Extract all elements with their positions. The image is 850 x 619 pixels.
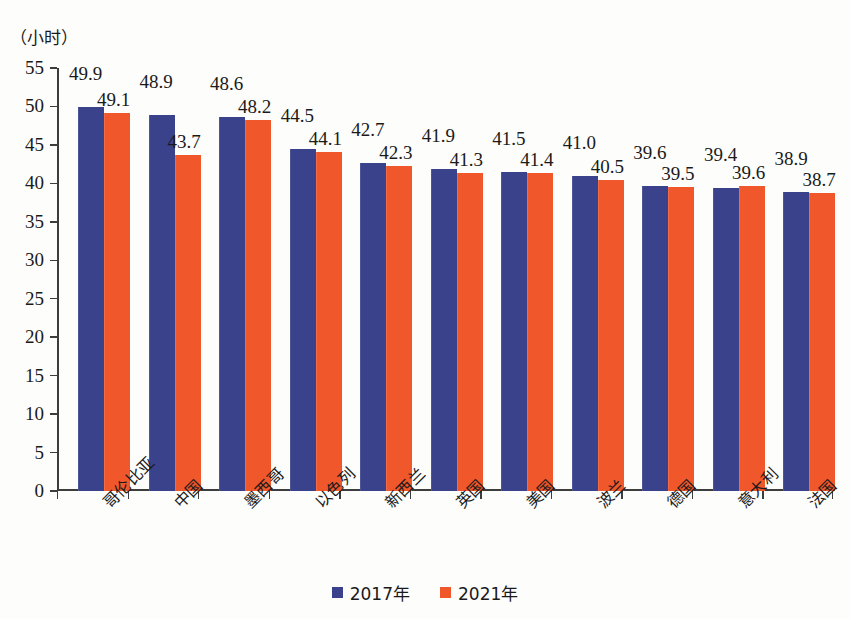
bar-series-2021[interactable]: [104, 113, 130, 491]
bar-value-label: 41.5: [492, 129, 525, 148]
x-axis-tick: [57, 491, 58, 499]
y-axis-tick-label: 40: [4, 173, 44, 192]
y-axis-tick-label: 55: [4, 58, 44, 77]
bar-group: 41.040.5: [572, 68, 624, 491]
bar-value-label: 48.6: [210, 74, 243, 93]
bar-value-label: 39.4: [704, 145, 737, 164]
bar-value-label: 44.1: [309, 129, 342, 148]
legend-item-2017[interactable]: 2017年: [332, 580, 410, 605]
bar-group: 39.439.6: [713, 68, 765, 491]
y-axis-tick: [50, 67, 57, 68]
bar-value-label: 48.2: [238, 97, 271, 116]
y-axis-tick-label: 0: [4, 481, 44, 500]
bar-series-2021[interactable]: [457, 173, 483, 491]
y-axis-tick: [50, 106, 57, 107]
y-axis-tick-label: 45: [4, 135, 44, 154]
bar-series-2017[interactable]: [713, 188, 739, 491]
bar-series-2021[interactable]: [668, 187, 694, 491]
bar-value-label: 44.5: [281, 106, 314, 125]
bar-series-2021[interactable]: [245, 120, 271, 491]
bar-value-label: 41.0: [563, 133, 596, 152]
bar-series-2017[interactable]: [290, 149, 316, 491]
y-axis-tick-label: 10: [4, 404, 44, 423]
y-axis-tick: [50, 490, 57, 491]
legend-label: 2021年: [458, 580, 518, 605]
y-axis-tick-label: 50: [4, 96, 44, 115]
bar-group: 41.941.3: [431, 68, 483, 491]
bar-value-label: 49.9: [69, 64, 102, 83]
bar-group: 38.938.7: [783, 68, 835, 491]
bar-value-label: 41.4: [520, 150, 553, 169]
y-axis-tick-label: 15: [4, 366, 44, 385]
bar-series-2021[interactable]: [739, 186, 765, 491]
y-axis-tick: [50, 336, 57, 337]
bar-group: 42.742.3: [360, 68, 412, 491]
y-axis-tick: [50, 144, 57, 145]
plot-area: 051015202530354045505549.949.148.943.748…: [57, 68, 833, 491]
bar-series-2021[interactable]: [527, 173, 553, 491]
bar-series-2017[interactable]: [572, 176, 598, 491]
bar-series-2017[interactable]: [360, 163, 386, 491]
bar-series-2017[interactable]: [783, 192, 809, 491]
bar-value-label: 48.9: [140, 72, 173, 91]
y-axis-tick-label: 20: [4, 327, 44, 346]
bar-group: 48.943.7: [149, 68, 201, 491]
bar-value-label: 43.7: [168, 132, 201, 151]
bar-value-label: 41.3: [450, 150, 483, 169]
y-axis-tick: [50, 413, 57, 414]
legend-swatch: [332, 587, 343, 598]
bar-value-label: 40.5: [591, 157, 624, 176]
y-axis-tick-label: 25: [4, 289, 44, 308]
y-axis-tick-label: 35: [4, 212, 44, 231]
bar-value-label: 38.7: [802, 170, 835, 189]
bar-series-2021[interactable]: [809, 193, 835, 491]
bar-series-2021[interactable]: [316, 152, 342, 491]
legend-label: 2017年: [350, 580, 410, 605]
bar-series-2017[interactable]: [149, 115, 175, 491]
bar-value-label: 38.9: [774, 149, 807, 168]
chart-legend: 2017年2021年: [0, 580, 850, 605]
bar-value-label: 42.7: [351, 120, 384, 139]
bar-series-2021[interactable]: [175, 155, 201, 491]
legend-swatch: [440, 587, 451, 598]
y-axis-tick: [50, 452, 57, 453]
y-axis-tick-label: 5: [4, 443, 44, 462]
bar-value-label: 49.1: [97, 90, 130, 109]
y-axis-tick: [50, 298, 57, 299]
bar-value-label: 41.9: [422, 126, 455, 145]
bar-value-label: 39.6: [633, 143, 666, 162]
y-axis-unit-label: （小时）: [10, 24, 78, 49]
bar-series-2021[interactable]: [598, 180, 624, 491]
bar-group: 41.541.4: [501, 68, 553, 491]
y-axis-line: [57, 68, 59, 491]
bar-group: 39.639.5: [642, 68, 694, 491]
bar-group: 48.648.2: [219, 68, 271, 491]
bar-group: 44.544.1: [290, 68, 342, 491]
y-axis-tick: [50, 260, 57, 261]
bar-series-2017[interactable]: [219, 117, 245, 491]
bar-series-2017[interactable]: [501, 172, 527, 491]
bar-value-label: 42.3: [379, 143, 412, 162]
bar-series-2021[interactable]: [386, 166, 412, 491]
y-axis-tick: [50, 183, 57, 184]
bar-series-2017[interactable]: [642, 186, 668, 491]
bar-chart: （小时） 051015202530354045505549.949.148.94…: [0, 0, 850, 619]
y-axis-tick-label: 30: [4, 250, 44, 269]
bar-value-label: 39.5: [661, 164, 694, 183]
bar-group: 49.949.1: [78, 68, 130, 491]
legend-item-2021[interactable]: 2021年: [440, 580, 518, 605]
bar-series-2017[interactable]: [431, 169, 457, 491]
bar-value-label: 39.6: [732, 163, 765, 182]
bar-series-2017[interactable]: [78, 107, 104, 491]
y-axis-tick: [50, 221, 57, 222]
y-axis-tick: [50, 375, 57, 376]
